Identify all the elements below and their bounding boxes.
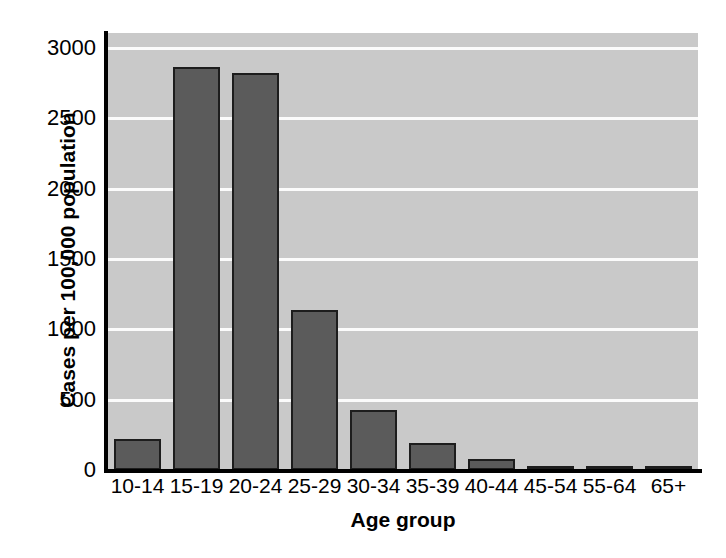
plot-area — [108, 33, 698, 470]
x-axis-tick-labels: 10-1415-1920-2425-2930-3435-3940-4445-54… — [108, 474, 698, 504]
bar — [409, 443, 456, 470]
bar — [350, 410, 397, 470]
x-axis-tick-label: 15-19 — [167, 474, 226, 498]
bar — [232, 73, 279, 470]
x-axis-tick-label: 30-34 — [344, 474, 403, 498]
y-axis-tick-label: 2000 — [0, 178, 102, 200]
y-axis-tick-label: 1000 — [0, 318, 102, 340]
y-axis-tick-label: 3000 — [0, 37, 102, 59]
y-axis-tick-label: 2500 — [0, 107, 102, 129]
x-axis-tick-label: 55-64 — [580, 474, 639, 498]
bar — [291, 310, 338, 470]
x-axis-title: Age group — [108, 508, 698, 532]
x-axis-tick-label: 35-39 — [403, 474, 462, 498]
gridline — [108, 47, 698, 50]
y-axis-tick-label: 500 — [0, 389, 102, 411]
x-axis-tick-label: 10-14 — [108, 474, 167, 498]
x-axis-tick-label: 20-24 — [226, 474, 285, 498]
x-axis-tick-label: 25-29 — [285, 474, 344, 498]
y-axis-line — [104, 31, 108, 473]
bar-chart-figure: Cases per 100,000 population 05001000150… — [0, 0, 726, 558]
bar — [173, 67, 220, 470]
y-axis-tick-label: 1500 — [0, 248, 102, 270]
x-axis-tick-label: 65+ — [639, 474, 698, 498]
bar — [114, 439, 161, 470]
y-axis-tick-labels: 050010001500200025003000 — [0, 0, 102, 558]
x-axis-line — [104, 469, 702, 473]
y-axis-tick-label: 0 — [0, 459, 102, 481]
x-axis-tick-label: 45-54 — [521, 474, 580, 498]
x-axis-tick-label: 40-44 — [462, 474, 521, 498]
